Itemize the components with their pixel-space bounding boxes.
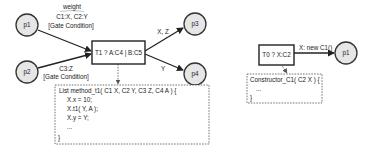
petri-net-diagram: p1 p2 p3 p4 T1 ? A:C4 | B:C5 weight C1:X…	[0, 0, 372, 150]
place-p1-right-label: p1	[342, 49, 350, 57]
method-line: List method_t1( C1 X, C2 Y, C3 Z, C4 A )…	[59, 87, 176, 95]
weight-label: weight	[62, 3, 81, 11]
constructor-line: }	[250, 94, 252, 102]
arc-p3-label: X, Z	[157, 28, 169, 35]
method-line: }	[58, 134, 60, 142]
transition-t1[interactable]: T1 ? A:C4 | B:C5	[92, 41, 145, 64]
arc-p2-weight: C3:Z	[59, 65, 73, 72]
transition-t1-label: T1 ? A:C4 | B:C5	[95, 49, 143, 57]
place-p1[interactable]: p1	[16, 14, 38, 36]
place-p1-right[interactable]: p1	[335, 42, 357, 64]
method-box: List method_t1( C1 X, C2 Y, C3 Z, C4 A )…	[55, 85, 209, 144]
transition-t0-label: T0 ? X:C2	[262, 51, 291, 58]
arc-p4-label: Y	[161, 65, 166, 72]
place-p1-label: p1	[23, 21, 31, 29]
place-p4[interactable]: p4	[184, 63, 206, 85]
weight-brace	[60, 11, 84, 12]
arc-p1-to-t1	[38, 30, 91, 51]
place-p3[interactable]: p3	[184, 13, 206, 35]
arc-p2-gate: [Gate Condition]	[43, 73, 89, 81]
place-p2-label: p2	[23, 68, 31, 76]
place-p2[interactable]: p2	[16, 61, 38, 83]
arc-t0-label: X: new C1()	[299, 44, 332, 52]
method-line: X.t1( Y, A );	[67, 105, 98, 113]
constructor-box: Constructor_C1( C2 X ) { ... }	[247, 74, 322, 103]
constructor-line: ...	[256, 85, 261, 92]
method-line: X.x = 10;	[67, 96, 92, 103]
place-p4-label: p4	[191, 70, 199, 78]
arc-p1-gate: [Gate Condition]	[48, 22, 94, 30]
place-p3-label: p3	[191, 20, 199, 28]
transition-t0[interactable]: T0 ? X:C2	[259, 45, 294, 65]
constructor-line: Constructor_C1( C2 X ) {	[250, 76, 320, 84]
method-line: ...	[67, 123, 72, 130]
arc-p1-weight: C1:X, C2:Y	[56, 13, 88, 20]
method-line: X.y = Y;	[67, 114, 89, 122]
